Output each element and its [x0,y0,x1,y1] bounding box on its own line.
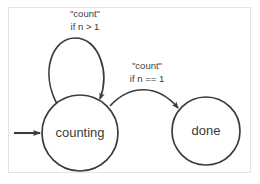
diagram-canvas: counting done "count" if n > 1 "count" i… [0,0,260,184]
state-machine-diagram: counting done "count" if n > 1 "count" i… [0,0,260,184]
counting-to-done-guard-label: if n == 1 [130,73,164,84]
self-loop-transition-arrow [49,38,104,104]
self-loop-event-label: "count" [70,8,100,19]
counting-to-done-transition-arrow [110,90,178,108]
self-loop-guard-label: if n > 1 [71,21,100,32]
counting-to-done-event-label: "count" [132,60,162,71]
state-label-counting: counting [55,125,104,140]
state-label-done: done [192,123,221,138]
